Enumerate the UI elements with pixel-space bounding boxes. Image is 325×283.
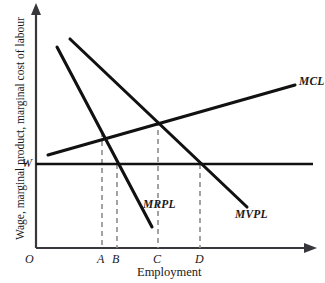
x-axis-arrowhead (304, 243, 317, 253)
chart-canvas (0, 0, 325, 283)
mrpl-label: MRPL (143, 198, 176, 210)
x-tick-label-o: O (25, 252, 34, 267)
mrpl-curve (57, 47, 152, 227)
x-axis-title: Employment (137, 265, 202, 280)
y-axis-arrowhead (31, 3, 41, 15)
mvpl-label: MVPL (235, 208, 268, 220)
y-axis-title: Wage, marginal product, marginal cost of… (14, 17, 26, 240)
monopsony-labour-market-chart: MCL MRPL MVPL W O A B C D Employment Wag… (0, 0, 325, 283)
x-tick-label-a: A (97, 252, 104, 267)
mcl-label: MCL (299, 75, 325, 87)
x-tick-label-b: B (112, 252, 119, 267)
mcl-curve (48, 85, 295, 155)
